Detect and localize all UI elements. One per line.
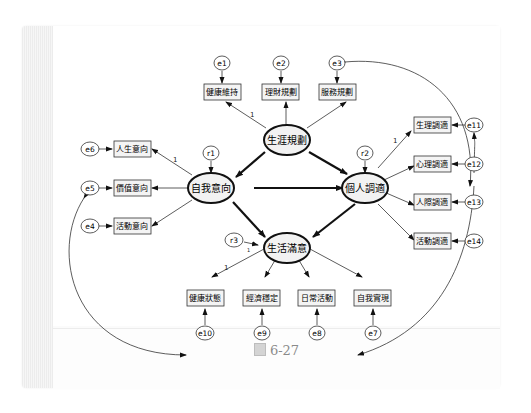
observed-box[interactable]: 人生意向 <box>114 141 151 157</box>
svg-text:e6: e6 <box>85 145 95 154</box>
svg-text:e10: e10 <box>198 329 212 338</box>
residual-r3[interactable]: r3 <box>225 233 243 247</box>
observed-box[interactable]: 生理調適 <box>414 117 451 133</box>
error-e10[interactable]: e10 <box>196 326 214 340</box>
residual-r2[interactable]: r2 <box>357 146 373 160</box>
svg-text:1: 1 <box>393 137 397 145</box>
observed-box[interactable]: 經濟穩定 <box>243 290 280 306</box>
svg-text:r3: r3 <box>230 236 238 245</box>
svg-text:e7: e7 <box>368 329 378 338</box>
error-e13[interactable]: e13 <box>465 195 483 209</box>
observed-box[interactable]: 健康維持 <box>204 84 241 100</box>
error-e14[interactable]: e14 <box>465 234 483 248</box>
observed-box[interactable]: 活動意向 <box>114 218 151 234</box>
error-e2[interactable]: e2 <box>273 56 289 70</box>
latent-variables: 生涯規劃 自我意向 個人調適 生活滿意 <box>188 125 388 263</box>
observed-box[interactable]: 理財規劃 <box>262 84 299 100</box>
error-e11[interactable]: e11 <box>465 118 483 132</box>
observed-box[interactable]: 健康狀態 <box>187 290 224 306</box>
observed-box[interactable]: 服務規劃 <box>319 84 356 100</box>
svg-text:e13: e13 <box>467 198 481 207</box>
svg-text:健康維持: 健康維持 <box>206 87 238 97</box>
svg-text:e14: e14 <box>467 237 481 246</box>
svg-text:e8: e8 <box>312 329 322 338</box>
svg-text:1: 1 <box>224 264 228 272</box>
svg-text:活動意向: 活動意向 <box>116 221 148 231</box>
error-e6[interactable]: e6 <box>81 142 99 156</box>
latent-adjust[interactable]: 個人調適 <box>342 173 388 203</box>
svg-text:生活滿意: 生活滿意 <box>267 242 307 254</box>
observed-box[interactable]: 自我實現 <box>354 290 391 306</box>
svg-text:e2: e2 <box>276 59 286 68</box>
svg-text:理財規劃: 理財規劃 <box>265 87 297 97</box>
svg-text:個人調適: 個人調適 <box>345 182 385 194</box>
svg-text:e12: e12 <box>467 160 481 169</box>
latent-self[interactable]: 自我意向 <box>188 173 234 203</box>
error-e8[interactable]: e8 <box>309 326 325 340</box>
observed-box[interactable]: 價值意向 <box>114 180 151 196</box>
error-e7[interactable]: e7 <box>365 326 381 340</box>
svg-text:e1: e1 <box>217 59 227 68</box>
error-e4[interactable]: e4 <box>81 219 99 233</box>
error-e12[interactable]: e12 <box>465 157 483 171</box>
svg-text:e11: e11 <box>467 121 481 130</box>
svg-text:e4: e4 <box>85 222 95 231</box>
svg-text:r1: r1 <box>207 149 215 158</box>
latent-life[interactable]: 生活滿意 <box>264 233 310 263</box>
svg-text:e9: e9 <box>257 329 267 338</box>
svg-text:日常活動: 日常活動 <box>301 293 333 303</box>
measurement-paths <box>98 71 466 325</box>
svg-text:e3: e3 <box>332 59 342 68</box>
error-e9[interactable]: e9 <box>254 326 270 340</box>
svg-text:1: 1 <box>250 111 254 119</box>
svg-text:生理調適: 生理調適 <box>416 120 448 130</box>
latent-career[interactable]: 生涯規劃 <box>264 125 310 155</box>
svg-text:服務規劃: 服務規劃 <box>321 87 353 97</box>
sem-diagram: 1 1 1 1 1 生涯規劃 自我意向 個人調適 生活滿意 健康維持 理財規劃 … <box>0 0 531 413</box>
structural-paths <box>233 152 355 237</box>
observed-box[interactable]: 心理調適 <box>414 156 451 172</box>
residual-r1[interactable]: r1 <box>203 146 219 160</box>
svg-text:價值意向: 價值意向 <box>116 183 148 193</box>
svg-text:1: 1 <box>247 247 250 253</box>
svg-text:e5: e5 <box>85 184 95 193</box>
svg-text:活動調適: 活動調適 <box>416 236 448 246</box>
observed-variables: 健康維持 理財規劃 服務規劃 人生意向 價值意向 活動意向 生理調適 心理調適 … <box>114 84 451 306</box>
observed-box[interactable]: 日常活動 <box>298 290 335 306</box>
svg-text:經濟穩定: 經濟穩定 <box>246 293 278 303</box>
svg-text:人生意向: 人生意向 <box>116 144 148 154</box>
observed-box[interactable]: 人際調適 <box>414 194 451 210</box>
svg-text:r2: r2 <box>361 149 369 158</box>
svg-text:健康狀態: 健康狀態 <box>189 293 221 303</box>
svg-text:生涯規劃: 生涯規劃 <box>267 134 307 146</box>
error-e1[interactable]: e1 <box>214 56 230 70</box>
svg-text:自我實現: 自我實現 <box>357 293 389 303</box>
error-e3[interactable]: e3 <box>329 56 345 70</box>
error-e5[interactable]: e5 <box>81 181 99 195</box>
svg-text:人際調適: 人際調適 <box>416 197 448 207</box>
observed-box[interactable]: 活動調適 <box>414 233 451 249</box>
svg-text:自我意向: 自我意向 <box>191 182 231 194</box>
svg-text:1: 1 <box>173 156 177 164</box>
svg-text:心理調適: 心理調適 <box>416 159 448 169</box>
cov-e3-e12 <box>345 61 471 186</box>
